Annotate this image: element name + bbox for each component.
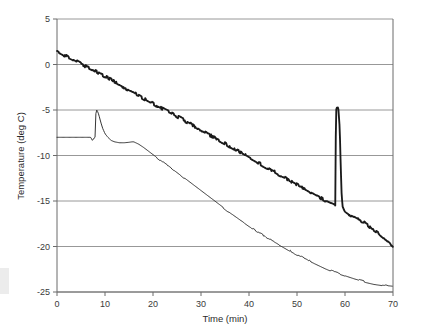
y-tick-label--15: -15 <box>37 196 50 206</box>
chart-background <box>0 0 424 336</box>
x-tick-label-40: 40 <box>244 299 254 309</box>
y-tick-label--10: -10 <box>37 151 50 161</box>
x-tick-label-70: 70 <box>388 299 398 309</box>
x-tick-label-50: 50 <box>292 299 302 309</box>
x-tick-label-0: 0 <box>54 299 59 309</box>
y-tick-label--5: -5 <box>42 105 50 115</box>
y-tick-label-0: 0 <box>45 60 50 70</box>
y-tick-label-5: 5 <box>45 14 50 24</box>
y-tick-label--20: -20 <box>37 242 50 252</box>
temperature-vs-time-line-chart: 50-5-10-15-20-25 010203040506070 Time (m… <box>0 0 424 336</box>
x-tick-label-20: 20 <box>148 299 158 309</box>
y-axis-title: Temperature (deg C) <box>15 112 26 200</box>
x-axis-title: Time (min) <box>202 313 247 324</box>
x-tick-label-10: 10 <box>100 299 110 309</box>
y-tick-label--25: -25 <box>37 287 50 297</box>
left-edge-artifact <box>0 268 9 294</box>
x-tick-label-60: 60 <box>340 299 350 309</box>
x-tick-label-30: 30 <box>196 299 206 309</box>
chart-container: 50-5-10-15-20-25 010203040506070 Time (m… <box>0 0 424 336</box>
